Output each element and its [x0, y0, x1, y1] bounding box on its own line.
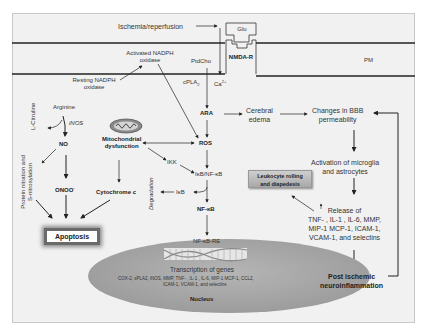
- bbb-line1: Changes in BBB: [312, 106, 363, 115]
- onoo-text: ONOO: [55, 187, 73, 193]
- cpla2-text: cPLA: [183, 79, 197, 85]
- cytochrome-c-label: Cytochrome c: [96, 189, 136, 196]
- inos-label: iNOS: [69, 120, 83, 127]
- ptdcho-label: PtdCho: [191, 58, 211, 65]
- mito-line2: dysfunction: [102, 143, 141, 150]
- post-line2: neuroinflammation: [320, 281, 383, 290]
- mitochondrial-dysfunction-label: Mitochondrialdysfunction: [102, 136, 141, 150]
- post-ischemic-neuroinflammation-label: Post ischemicneuroinflammation: [320, 272, 383, 290]
- release-line3: MIP-1 MCP-1, ICAM-1,: [308, 224, 381, 233]
- ikb-label: IκB: [176, 189, 185, 196]
- onoo-label: ONOO-: [55, 184, 75, 194]
- plasma-membrane: [12, 43, 415, 76]
- calcium-superscript: 2+: [222, 79, 227, 84]
- leukocyte-line1: Leukocyte rolling: [249, 172, 311, 180]
- onoo-superscript: -: [73, 185, 74, 190]
- l-citruline-label: L-Citruline: [30, 103, 37, 130]
- ros-label: ROS: [199, 140, 212, 147]
- no-label: NO: [59, 141, 68, 148]
- nmda-receptor-label: NMDA-R: [226, 54, 256, 61]
- apoptosis-box: Apoptosis: [44, 228, 100, 245]
- calcium-text: Ca: [214, 81, 222, 87]
- release-cytokines-label: Release ofTNF- , IL-1 , IL-6, MMP,MIP-1 …: [308, 206, 381, 242]
- protein-nitration-label: Protein nitration and S-nitrosylation: [20, 152, 34, 212]
- genes-line2: ICAM-1, VCAM-1, and selectins: [163, 282, 227, 287]
- cerebral-edema-label: Cerebraledema: [246, 106, 273, 124]
- nfkb-label: NF-κB: [197, 206, 215, 213]
- leukocyte-line2: and diapedesis: [249, 180, 311, 188]
- bbb-permeability-label: Changes in BBBpermeability: [312, 106, 363, 124]
- ischemia-reperfusion-label: Ischemia/reperfusion: [118, 22, 183, 31]
- nfkb-re-label: NF-κB-RE: [193, 238, 220, 245]
- release-line2: TNF- , IL-1 , IL-6, MMP,: [308, 215, 381, 224]
- activated-nadph-oxidase-label: Activated NADPH oxidase: [122, 50, 178, 64]
- activation-line2: and astrocytes: [311, 167, 379, 176]
- ikk-label: IKK: [167, 159, 177, 166]
- nucleus-label: Nucleus: [190, 296, 213, 303]
- edema-line1: Cerebral: [246, 106, 273, 115]
- calcium-label: Ca2+: [214, 78, 226, 88]
- plasma-membrane-label: PM: [364, 57, 373, 64]
- ikb-nfkb-label: IκB/NF-κB: [195, 171, 222, 178]
- glu-label: Glu: [231, 26, 253, 33]
- transcription-label: Transcription of genes: [170, 266, 234, 273]
- post-line1: Post ischemic: [320, 272, 383, 281]
- cpla2-subscript: 2: [197, 82, 199, 87]
- activation-line1: Activation of microglia: [311, 158, 379, 167]
- ara-label: ARA: [200, 110, 213, 117]
- genes-line1: COX-2, sPLA2, iNOS, MMP, TNF- , IL-1 , I…: [118, 276, 254, 281]
- mito-line1: Mitochondrial: [102, 136, 141, 143]
- arginine-label: Arginine: [53, 104, 75, 111]
- microglia-activation-label: Activation of microgliaand astrocytes: [311, 158, 379, 176]
- dna-helix-icon: [164, 248, 247, 261]
- leukocyte-rolling-box: Leukocyte rollingand diapedesis: [248, 170, 312, 188]
- edema-line2: edema: [246, 115, 273, 124]
- degradation-label: Degradation: [148, 177, 155, 210]
- release-line1: Release of: [308, 206, 381, 215]
- mitochondrion-icon: [110, 119, 142, 133]
- cpla2-label: cPLA2: [183, 79, 200, 88]
- bbb-line2: permeability: [312, 115, 363, 124]
- release-line4: VCAM-1, and selectins: [308, 233, 381, 242]
- resting-nadph-oxidase-label: Resting NADPH oxidase: [68, 77, 120, 91]
